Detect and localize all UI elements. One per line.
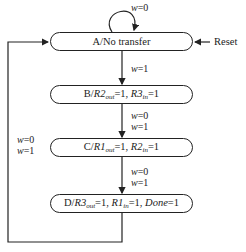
state-c: C/R1out=1, R2in=1 bbox=[50, 138, 193, 157]
state-b-label: B/R2out=1, R3in=1 bbox=[84, 88, 159, 101]
state-b: B/R2out=1, R3in=1 bbox=[50, 85, 193, 104]
state-d-label: D/R3out=1, R1in=1, Done=1 bbox=[64, 197, 179, 210]
label-d-to-a: w=0 w=1 bbox=[17, 134, 34, 156]
label-a-to-b: w=1 bbox=[131, 63, 148, 74]
reset-label: Reset bbox=[214, 36, 237, 47]
state-d: D/R3out=1, R1in=1, Done=1 bbox=[50, 194, 193, 213]
state-c-label: C/R1out=1, R2in=1 bbox=[84, 141, 159, 154]
label-c-to-d: w=0 w=1 bbox=[131, 166, 148, 188]
label-b-to-c: w=0 w=1 bbox=[131, 110, 148, 132]
state-a: A/No transfer bbox=[50, 32, 193, 51]
label-self-loop: w=0 bbox=[131, 2, 148, 13]
self-loop-arrow bbox=[109, 11, 135, 32]
state-a-label: A/No transfer bbox=[92, 36, 150, 47]
